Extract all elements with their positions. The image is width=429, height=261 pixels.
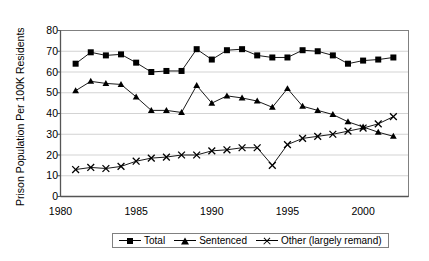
marker-square <box>118 51 124 57</box>
marker-triangle <box>193 82 200 88</box>
marker-square <box>330 52 336 58</box>
y-axis-tick-50: 50 <box>32 87 58 97</box>
x-axis-tick-1980: 1980 <box>41 205 81 217</box>
marker-square <box>315 48 321 54</box>
marker-square <box>194 46 200 52</box>
series-line <box>76 117 394 170</box>
legend-label-other: Other (largely remand) <box>281 235 382 246</box>
marker-triangle <box>284 85 291 91</box>
marker-square <box>239 46 245 52</box>
legend-marker-triangle-icon <box>174 236 196 246</box>
marker-triangle <box>87 78 94 84</box>
marker-triangle <box>72 87 79 93</box>
y-axis-tick-0: 0 <box>32 191 58 201</box>
y-axis-tick-labels: 01020304050607080 <box>30 0 58 261</box>
plot-area <box>0 0 429 261</box>
legend-marker-x-icon <box>256 236 278 246</box>
y-axis-tick-20: 20 <box>32 150 58 160</box>
marker-square <box>284 54 290 60</box>
marker-square <box>179 68 185 74</box>
legend-item-total: Total <box>119 235 165 246</box>
marker-square <box>88 49 94 55</box>
legend-marker-square-icon <box>119 236 141 246</box>
x-axis-tick-1985: 1985 <box>116 205 156 217</box>
x-axis-tick-1995: 1995 <box>267 205 307 217</box>
marker-triangle <box>224 92 231 98</box>
marker-triangle <box>345 118 352 124</box>
marker-square <box>224 47 230 53</box>
marker-square <box>300 47 306 53</box>
marker-triangle <box>133 93 140 99</box>
marker-square <box>103 52 109 58</box>
marker-square <box>375 57 381 63</box>
marker-square <box>209 57 215 63</box>
y-axis-tick-80: 80 <box>32 25 58 35</box>
marker-square <box>390 54 396 60</box>
prison-population-line-chart: Prison Population Per 100K Residents 010… <box>0 0 429 261</box>
y-axis-tick-40: 40 <box>32 108 58 118</box>
series-sentenced <box>72 78 397 139</box>
chart-legend: Total Sentenced Other (largely remand) <box>112 233 389 248</box>
y-axis-tick-60: 60 <box>32 67 58 77</box>
legend-item-sentenced: Sentenced <box>174 235 247 246</box>
marker-triangle <box>163 107 170 113</box>
marker-square <box>345 61 351 67</box>
y-axis-tick-70: 70 <box>32 46 58 56</box>
x-axis-tick-2000: 2000 <box>343 205 383 217</box>
marker-square <box>163 68 169 74</box>
x-axis-tick-1990: 1990 <box>192 205 232 217</box>
marker-square <box>73 61 79 67</box>
series-total <box>73 46 397 75</box>
marker-square <box>360 58 366 64</box>
legend-label-sentenced: Sentenced <box>199 235 247 246</box>
legend-item-other: Other (largely remand) <box>256 235 382 246</box>
y-axis-tick-10: 10 <box>32 170 58 180</box>
marker-square <box>148 69 154 75</box>
y-axis-tick-30: 30 <box>32 129 58 139</box>
marker-square <box>133 60 139 66</box>
marker-square <box>269 54 275 60</box>
legend-label-total: Total <box>144 235 165 246</box>
marker-square <box>254 52 260 58</box>
